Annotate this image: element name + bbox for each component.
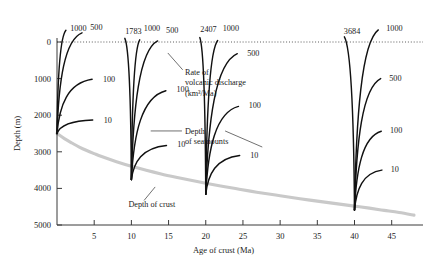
x-axis-tick-label: 35 bbox=[313, 231, 322, 241]
discharge-annotation-line: (km³/Ma) bbox=[185, 89, 217, 98]
crust-annotation-line: Depth of crust bbox=[128, 200, 176, 209]
discharge-annotation-line: volcanic discharge bbox=[185, 78, 246, 87]
x-axis-tick-label: 45 bbox=[387, 231, 396, 241]
y-axis-tick-label: 4000 bbox=[34, 183, 51, 193]
discharge-rate-label: 2407 bbox=[200, 25, 216, 34]
discharge-rate-label: 1000 bbox=[223, 24, 239, 33]
x-axis-tick-label: 20 bbox=[202, 231, 211, 241]
y-axis-tick-label: 2000 bbox=[34, 110, 51, 120]
discharge-rate-label: 3684 bbox=[344, 27, 360, 36]
y-axis-tick-label: 3000 bbox=[34, 147, 51, 157]
seamount-annotation-line: Depth bbox=[185, 127, 205, 136]
discharge-rate-label: 1000 bbox=[70, 24, 86, 33]
discharge-rate-label: 500 bbox=[389, 74, 401, 83]
chart-background bbox=[0, 0, 426, 268]
discharge-rate-label: 10 bbox=[250, 151, 258, 160]
y-axis-tick-label: 5000 bbox=[34, 220, 51, 230]
x-axis-tick-label: 30 bbox=[276, 231, 285, 241]
discharge-rate-label: 10 bbox=[104, 116, 112, 125]
discharge-rate-label: 1000 bbox=[386, 24, 402, 33]
y-axis-tick-label: 0 bbox=[47, 37, 51, 47]
x-axis-title: Age of crust (Ma) bbox=[193, 245, 254, 255]
discharge-rate-label: 1783 bbox=[125, 27, 141, 36]
discharge-rate-label: 100 bbox=[249, 101, 261, 110]
y-axis-title: Depth (m) bbox=[12, 116, 22, 151]
discharge-rate-label: 500 bbox=[247, 49, 259, 58]
discharge-rate-label: 10 bbox=[391, 165, 399, 174]
discharge-rate-label: 500 bbox=[90, 23, 102, 32]
discharge-rate-label: 100 bbox=[390, 126, 402, 135]
chart-canvas: 01000200030004000500051015202530354045 1… bbox=[0, 0, 426, 268]
x-axis-tick-label: 15 bbox=[164, 231, 173, 241]
x-axis-tick-label: 10 bbox=[127, 231, 136, 241]
x-axis-tick-label: 25 bbox=[239, 231, 248, 241]
y-axis-tick-label: 1000 bbox=[34, 74, 51, 84]
volcanic-discharge-figure: 01000200030004000500051015202530354045 1… bbox=[0, 0, 426, 268]
discharge-rate-label: 1000 bbox=[144, 24, 160, 33]
discharge-rate-label: 100 bbox=[103, 75, 115, 84]
seamount-annotation-line: of seamounts bbox=[185, 137, 228, 146]
x-axis-tick-label: 5 bbox=[92, 231, 96, 241]
discharge-annotation-line: Rate of bbox=[185, 68, 209, 77]
discharge-rate-label: 500 bbox=[166, 26, 178, 35]
x-axis-tick-label: 40 bbox=[350, 231, 359, 241]
